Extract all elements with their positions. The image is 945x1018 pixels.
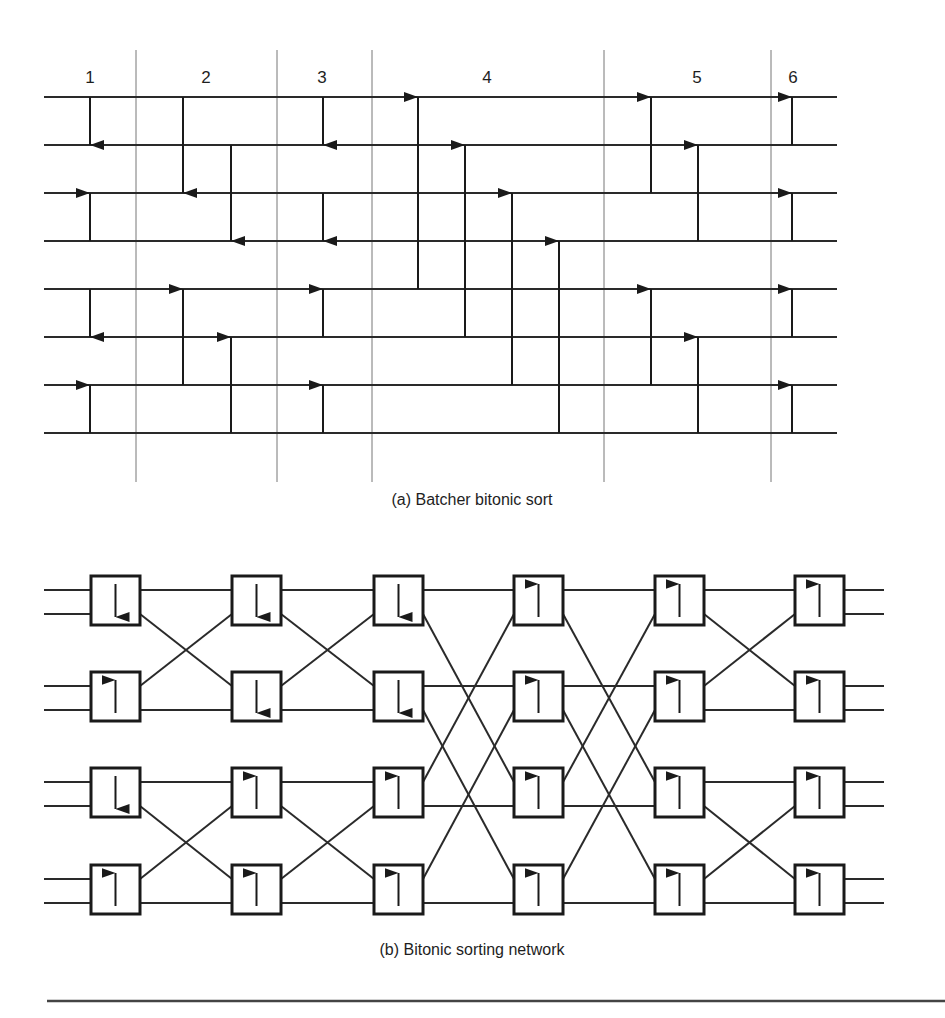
wires <box>44 97 837 433</box>
figure-b-caption: (b) Bitonic sorting network <box>380 941 566 958</box>
figure-a-caption: (a) Batcher bitonic sort <box>392 491 554 508</box>
comparator-box <box>795 768 844 817</box>
comparator-box <box>374 576 423 625</box>
comparator-box <box>795 672 844 721</box>
comparator-box <box>232 768 281 817</box>
batcher-bitonic-sort-diagram: 123456 (a) Batcher bitonic sort <box>44 50 837 508</box>
comparator-arrows <box>90 97 792 433</box>
comparator-box <box>655 768 704 817</box>
comparator-boxes <box>91 576 844 914</box>
comparator-box <box>374 672 423 721</box>
bitonic-sorting-network-diagram: (b) Bitonic sorting network <box>44 576 884 958</box>
stage-label: 1 <box>85 68 94 87</box>
comparator-box <box>514 672 563 721</box>
comparator-box <box>232 865 281 914</box>
network-wires <box>44 590 884 903</box>
comparator-box <box>655 865 704 914</box>
comparator-box <box>232 576 281 625</box>
comparator-box <box>514 865 563 914</box>
comparator-box <box>795 576 844 625</box>
bitonic-sort-figure: 123456 (a) Batcher bitonic sort (b) Bito… <box>0 0 945 1018</box>
stage-label: 3 <box>317 68 326 87</box>
comparator-box <box>655 672 704 721</box>
comparator-box <box>514 768 563 817</box>
stage-labels: 123456 <box>85 68 797 87</box>
comparator-box <box>374 768 423 817</box>
comparator-box <box>91 576 140 625</box>
comparator-box <box>374 865 423 914</box>
comparator-box <box>91 865 140 914</box>
stage-label: 5 <box>692 68 701 87</box>
comparator-box <box>514 576 563 625</box>
comparator-box <box>795 865 844 914</box>
comparator-box <box>91 768 140 817</box>
comparator-box <box>91 672 140 721</box>
stage-label: 4 <box>482 68 491 87</box>
stage-label: 6 <box>788 68 797 87</box>
stage-label: 2 <box>201 68 210 87</box>
comparator-box <box>655 576 704 625</box>
comparator-box <box>232 672 281 721</box>
